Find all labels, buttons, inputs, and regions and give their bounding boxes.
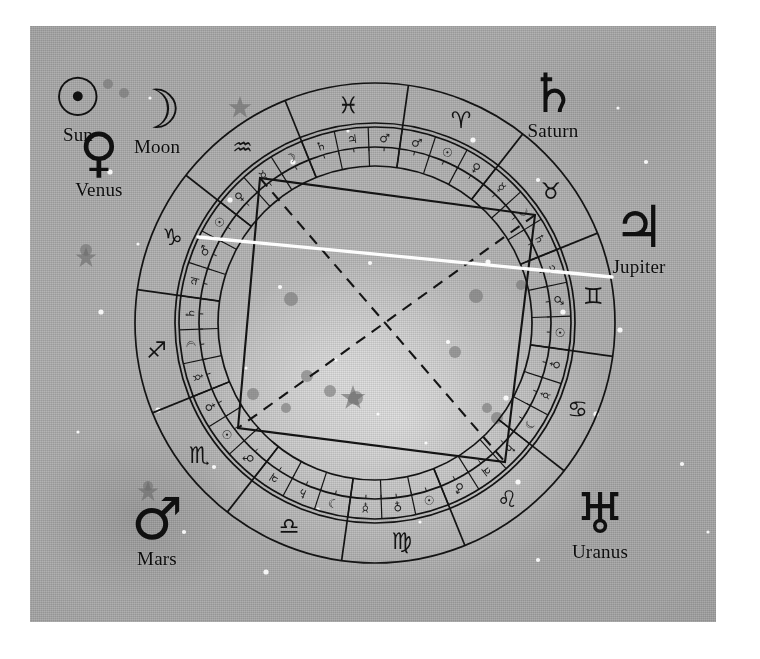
planet-name-mars: Mars — [97, 548, 217, 570]
planet-name-saturn: Saturn — [493, 120, 613, 142]
venus-symbol-icon: ♀ — [39, 127, 159, 179]
planet-label-uranus: ♅Uranus — [540, 487, 660, 563]
planet-name-uranus: Uranus — [540, 541, 660, 563]
planet-name-venus: Venus — [39, 179, 159, 201]
uranus-symbol-icon: ♅ — [540, 487, 660, 541]
planet-name-jupiter: Jupiter — [579, 256, 699, 278]
planet-label-mars: ♂Mars — [97, 492, 217, 570]
saturn-symbol-icon: ♄ — [493, 68, 613, 120]
jupiter-symbol-icon: ♃ — [579, 200, 699, 256]
planet-label-saturn: ♄Saturn — [493, 68, 613, 142]
astrology-chart-page: ♈♉♊♋♌♍♎♏♐♑♒♓ ♂☉♀☿☽♄♃♂☉♀☿☽♄♃♂☉♀☿☽♄♃♂☉♀☿☽♄… — [0, 0, 760, 659]
planet-label-venus: ♀Venus — [39, 127, 159, 201]
planet-label-jupiter: ♃Jupiter — [579, 200, 699, 278]
mars-symbol-icon: ♂ — [97, 492, 217, 548]
